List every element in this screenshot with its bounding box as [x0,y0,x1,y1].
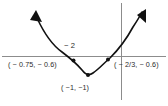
vertex-point-dot [86,73,90,77]
curve-right-arrow-icon [137,9,146,23]
x-tick-label-minus-two: − 2 [64,41,75,50]
right-point-dot [106,58,110,62]
graph-figure: − 2 ( − 0.75, − 0.6) ( − 2/3, − 0.6) ( −… [0,0,168,106]
left-point-label: ( − 0.75, − 0.6) [8,60,57,69]
vertex-point-label: ( −1, −1) [61,83,89,92]
right-point-label: ( − 2/3, − 0.6) [114,60,159,69]
left-point-dot [72,59,76,63]
curve-left-arrow-icon [30,10,42,22]
